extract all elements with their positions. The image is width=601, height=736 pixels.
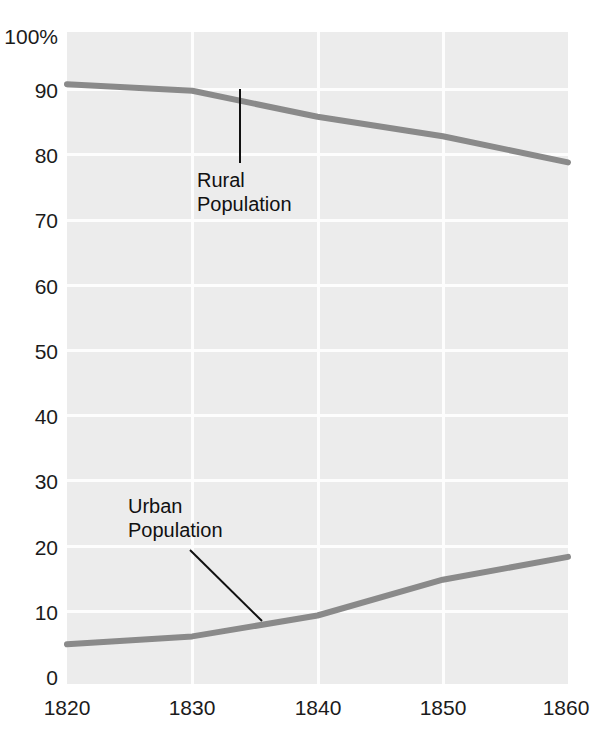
annotation-urban-population: Urban Population: [128, 494, 223, 543]
annotation-rural-population: Rural Population: [197, 168, 292, 217]
line-chart: 100% 90 80 70 60 50 40 30 20 10 0 1820 1…: [0, 0, 601, 736]
x-tick-1820: 1820: [32, 697, 102, 718]
y-tick-40: 40: [0, 406, 58, 427]
x-tick-1840: 1840: [283, 697, 353, 718]
y-tick-50: 50: [0, 341, 58, 362]
x-tick-1850: 1850: [408, 697, 478, 718]
y-tick-20: 20: [0, 537, 58, 558]
x-tick-1830: 1830: [157, 697, 227, 718]
y-tick-70: 70: [0, 210, 58, 231]
y-tick-10: 10: [0, 602, 58, 623]
y-tick-90: 90: [0, 80, 58, 101]
x-tick-1860: 1860: [531, 697, 601, 718]
y-tick-30: 30: [0, 471, 58, 492]
y-tick-80: 80: [0, 145, 58, 166]
y-tick-0: 0: [0, 667, 58, 688]
y-axis: 100% 90 80 70 60 50 40 30 20 10 0: [0, 0, 601, 736]
y-tick-60: 60: [0, 276, 58, 297]
y-tick-100: 100%: [0, 26, 58, 47]
